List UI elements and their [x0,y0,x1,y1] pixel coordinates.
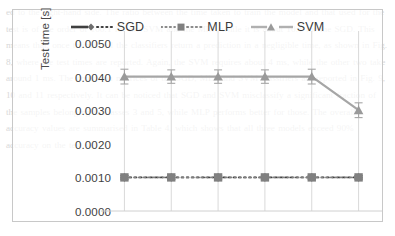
series-svm [120,69,364,117]
plot-area: Test time [s] 0.0000 0.0010 0.0020 0.003… [13,10,382,221]
chart-figure: SGD MLP SVM Test time [s] 0.0000 0.0010 … [12,9,383,222]
chart-canvas [13,10,384,223]
grid-lines [124,31,358,211]
data-series-layer [120,69,364,182]
